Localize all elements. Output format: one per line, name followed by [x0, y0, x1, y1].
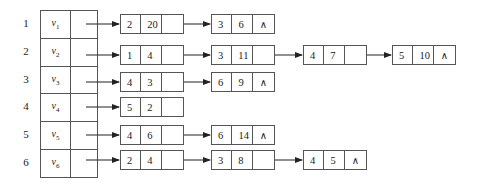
weight-field: 8 [232, 151, 252, 169]
null-pointer-symbol: ∧ [434, 46, 455, 64]
adjacency-list-diagram: 1v122036∧2v21431147510∧3v34369∧4v4525v54… [0, 0, 479, 187]
vertex-name-subscript: 4 [56, 106, 60, 114]
edge-node: 220 [120, 14, 184, 34]
edge-node: 46 [120, 125, 184, 145]
edge-node: 311 [211, 45, 275, 65]
edge-node: 47 [303, 45, 367, 65]
adjvex-field: 3 [212, 46, 232, 64]
edge-node: 43 [120, 72, 184, 92]
adjvex-field: 4 [304, 46, 324, 64]
null-pointer-symbol: ∧ [345, 151, 366, 169]
adjvex-field: 5 [121, 98, 141, 116]
weight-field: 10 [413, 46, 433, 64]
weight-field: 6 [141, 126, 161, 144]
vertex-index-label: 6 [19, 156, 33, 168]
vertex-name: v3 [41, 73, 70, 87]
weight-field: 4 [141, 151, 161, 169]
adjvex-field: 4 [304, 151, 324, 169]
vertex-index-label: 1 [19, 17, 33, 29]
vertex-name: v5 [41, 128, 70, 142]
vertex-name: v4 [41, 100, 70, 114]
weight-field: 11 [232, 46, 252, 64]
weight-field: 9 [232, 73, 252, 91]
next-pointer-field [162, 151, 183, 169]
adjvex-field: 4 [121, 126, 141, 144]
next-pointer-field [253, 46, 274, 64]
adjvex-field: 2 [121, 151, 141, 169]
edge-node: 36∧ [211, 14, 275, 34]
adjvex-field: 6 [212, 126, 232, 144]
edge-node: 614∧ [211, 125, 275, 145]
adjvex-field: 4 [121, 73, 141, 91]
weight-field: 6 [232, 15, 252, 33]
vertex-index-label: 5 [19, 128, 33, 140]
vertex-name: v1 [41, 17, 70, 31]
next-pointer-field [162, 98, 183, 116]
next-pointer-field [162, 15, 183, 33]
vertex-index-label: 2 [19, 45, 33, 57]
adjvex-field: 3 [212, 151, 232, 169]
weight-field: 7 [324, 46, 344, 64]
vertex-name: v2 [41, 45, 70, 59]
edge-node: 52 [120, 97, 184, 117]
vertex-name-subscript: 1 [56, 23, 60, 31]
edge-node: 69∧ [211, 72, 275, 92]
weight-field: 5 [324, 151, 344, 169]
adjvex-field: 2 [121, 15, 141, 33]
vertex-index-label: 4 [19, 100, 33, 112]
next-pointer-field [162, 126, 183, 144]
adjvex-field: 5 [393, 46, 413, 64]
vertex-index-label: 3 [19, 73, 33, 85]
next-pointer-field [253, 151, 274, 169]
vertex-name-subscript: 2 [56, 51, 60, 59]
next-pointer-field [345, 46, 366, 64]
adjvex-field: 3 [212, 15, 232, 33]
adjvex-field: 1 [121, 46, 141, 64]
adjvex-field: 6 [212, 73, 232, 91]
weight-field: 3 [141, 73, 161, 91]
edge-node: 14 [120, 45, 184, 65]
null-pointer-symbol: ∧ [253, 73, 274, 91]
vertex-name-subscript: 6 [56, 162, 60, 170]
weight-field: 14 [232, 126, 252, 144]
weight-field: 2 [141, 98, 161, 116]
edge-node: 45∧ [303, 150, 367, 170]
next-pointer-field [162, 73, 183, 91]
edge-node: 24 [120, 150, 184, 170]
vertex-name-subscript: 5 [56, 134, 60, 142]
vertex-name: v6 [41, 156, 70, 170]
null-pointer-symbol: ∧ [253, 15, 274, 33]
weight-field: 20 [141, 15, 161, 33]
weight-field: 4 [141, 46, 161, 64]
vertex-name-subscript: 3 [56, 79, 60, 87]
null-pointer-symbol: ∧ [253, 126, 274, 144]
edge-node: 510∧ [392, 45, 456, 65]
edge-node: 38 [211, 150, 275, 170]
next-pointer-field [162, 46, 183, 64]
